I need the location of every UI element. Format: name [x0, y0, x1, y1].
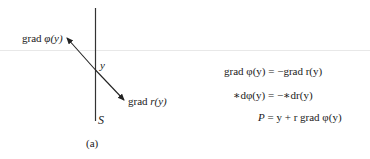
grad-phi-label: grad φ(y)	[22, 33, 63, 44]
grad-r-label: grad r(y)	[128, 96, 167, 107]
figure-caption: (a)	[86, 138, 98, 149]
equation-3: P = y + r grad φ(y)	[258, 112, 342, 123]
grad-r-arrow	[96, 70, 125, 100]
surface-s-label: S	[98, 114, 104, 126]
point-y-label: y	[100, 60, 105, 71]
gradient-diagram	[0, 0, 370, 159]
equation-2: ∗dφ(y) = −∗dr(y)	[233, 90, 313, 101]
grad-phi-arrow	[67, 38, 96, 70]
equation-1: grad φ(y) = −grad r(y)	[224, 66, 322, 77]
